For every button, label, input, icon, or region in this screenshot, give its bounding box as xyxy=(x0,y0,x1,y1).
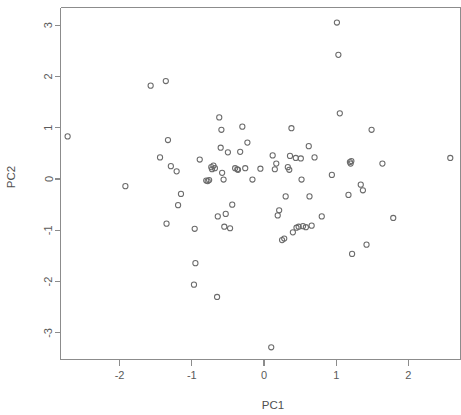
scatter-point xyxy=(221,177,226,182)
scatter-point xyxy=(258,166,263,171)
y-axis-tick-label: 1 xyxy=(43,125,55,131)
scatter-point xyxy=(178,191,183,196)
scatter-point xyxy=(227,226,232,231)
scatter-point xyxy=(197,157,202,162)
scatter-point xyxy=(346,192,351,197)
scatter-point xyxy=(163,78,168,83)
scatter-point xyxy=(391,215,396,220)
scatter-point xyxy=(298,156,303,161)
scatter-point xyxy=(220,170,225,175)
scatter-point xyxy=(230,202,235,207)
scatter-point xyxy=(283,194,288,199)
x-axis-tick-label: -1 xyxy=(187,369,197,381)
scatter-point xyxy=(274,161,279,166)
scatter-point xyxy=(168,164,173,169)
x-axis-tick-label: 1 xyxy=(333,369,339,381)
scatter-point xyxy=(349,251,354,256)
scatter-point xyxy=(148,83,153,88)
scatter-point xyxy=(337,111,342,116)
scatter-point xyxy=(165,137,170,142)
scatter-point xyxy=(240,124,245,129)
x-axis-title: PC1 xyxy=(262,399,284,411)
scatter-point xyxy=(369,127,374,132)
y-axis-tick-label: 3 xyxy=(43,22,55,28)
scatter-point xyxy=(448,155,453,160)
plot-frame xyxy=(61,8,461,360)
plot-canvas: -3-2-10123 -2-1012 PC1 PC2 xyxy=(0,0,461,415)
scatter-point xyxy=(269,345,274,350)
x-axis: -2-1012 xyxy=(115,360,412,381)
scatter-point xyxy=(380,161,385,166)
scatter-point xyxy=(123,184,128,189)
y-axis-tick-label: -3 xyxy=(43,328,55,338)
x-axis-tick-label: 0 xyxy=(261,369,267,381)
scatter-point xyxy=(157,155,162,160)
y-axis-tick-label: 2 xyxy=(43,73,55,79)
scatter-point xyxy=(358,182,363,187)
scatter-point xyxy=(307,194,312,199)
scatter-point xyxy=(223,211,228,216)
scatter-point xyxy=(336,52,341,57)
scatter-point xyxy=(277,208,282,213)
scatter-point xyxy=(217,115,222,120)
scatter-point xyxy=(238,149,243,154)
scatter-point xyxy=(174,169,179,174)
scatter-point xyxy=(272,167,277,172)
scatter-plot-figure: -3-2-10123 -2-1012 PC1 PC2 xyxy=(0,0,461,415)
x-axis-tick-label: 2 xyxy=(405,369,411,381)
scatter-point xyxy=(250,177,255,182)
scatter-point xyxy=(175,203,180,208)
y-axis-tick-label: -1 xyxy=(43,225,55,235)
scatter-point xyxy=(243,166,248,171)
scatter-point xyxy=(334,20,339,25)
scatter-point xyxy=(164,221,169,226)
scatter-point xyxy=(360,188,365,193)
y-axis-tick-label: -2 xyxy=(43,277,55,287)
scatter-point xyxy=(214,294,219,299)
scatter-point xyxy=(287,153,292,158)
x-axis-tick-label: -2 xyxy=(115,369,125,381)
scatter-point xyxy=(275,213,280,218)
scatter-point xyxy=(192,226,197,231)
scatter-point xyxy=(218,145,223,150)
y-axis-tick-label: 0 xyxy=(43,176,55,182)
y-axis-title: PC2 xyxy=(5,166,17,188)
scatter-point xyxy=(215,214,220,219)
scatter-point xyxy=(222,224,227,229)
scatter-point xyxy=(306,144,311,149)
scatter-point xyxy=(319,214,324,219)
scatter-point xyxy=(329,172,334,177)
scatter-point xyxy=(293,155,298,160)
scatter-point xyxy=(191,282,196,287)
scatter-point xyxy=(225,150,230,155)
scatter-point xyxy=(364,242,369,247)
y-axis: -3-2-10123 xyxy=(43,22,61,338)
scatter-point xyxy=(270,153,275,158)
scatter-point xyxy=(312,155,317,160)
scatter-point xyxy=(309,223,314,228)
scatter-point xyxy=(65,134,70,139)
scatter-point xyxy=(299,177,304,182)
scatter-point xyxy=(290,230,295,235)
scatter-point xyxy=(289,126,294,131)
data-points-layer xyxy=(65,20,453,350)
scatter-point xyxy=(193,261,198,266)
scatter-point xyxy=(219,127,224,132)
scatter-point xyxy=(245,140,250,145)
